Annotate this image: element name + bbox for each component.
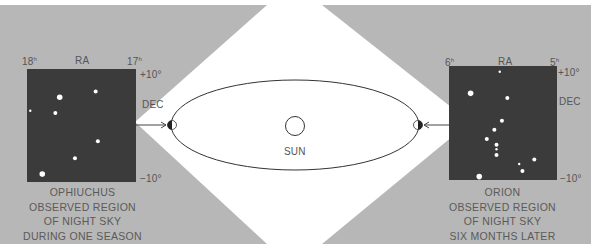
star — [505, 96, 509, 100]
star — [39, 171, 45, 177]
star — [96, 139, 100, 143]
ra-label-orion: RA — [498, 57, 512, 67]
star — [495, 148, 497, 150]
caption-line: ORION — [440, 185, 565, 200]
sun — [286, 117, 305, 136]
ra-tick-left-ophiuchus: 18h — [22, 56, 37, 67]
caption-orion: ORION OBSERVED REGION OF NIGHT SKY SIX M… — [440, 185, 565, 243]
star — [532, 157, 536, 161]
dec-tick-bottom-orion: −10° — [560, 174, 582, 184]
star — [485, 137, 489, 141]
caption-line: OPHIUCHUS — [10, 185, 155, 200]
star — [518, 163, 520, 165]
dec-tick-top-ophiuchus: +10° — [140, 70, 162, 80]
caption-line: OBSERVED REGION — [10, 200, 155, 215]
star — [492, 128, 496, 132]
star — [476, 174, 482, 180]
star — [495, 153, 499, 157]
star — [73, 156, 77, 160]
caption-line: DURING ONE SEASON — [10, 229, 155, 244]
star — [520, 169, 524, 173]
dec-tick-bottom-ophiuchus: −10° — [140, 174, 162, 184]
ra-tick-right-ophiuchus: 17h — [127, 56, 142, 67]
earth-right — [414, 121, 423, 130]
ra-label-ophiuchus: RA — [75, 56, 89, 66]
caption-ophiuchus: OPHIUCHUS OBSERVED REGION OF NIGHT SKY D… — [10, 185, 155, 243]
earth-left — [168, 121, 177, 130]
sky-panel-orion — [449, 66, 557, 180]
caption-line: SIX MONTHS LATER — [440, 229, 565, 244]
ra-tick-left-orion: 6h — [445, 57, 454, 68]
dec-label-orion: DEC — [559, 97, 581, 107]
star — [94, 90, 98, 94]
star — [500, 119, 504, 123]
star — [468, 91, 474, 97]
dec-tick-top-orion: +10° — [558, 68, 580, 78]
sky-panel-ophiuchus — [27, 69, 136, 182]
caption-line: OBSERVED REGION — [440, 200, 565, 215]
dec-label-ophiuchus: DEC — [142, 100, 164, 110]
star — [499, 71, 501, 73]
caption-line: OF NIGHT SKY — [440, 214, 565, 229]
star — [53, 111, 57, 115]
sun-label: SUN — [284, 147, 306, 157]
star — [29, 110, 31, 112]
star — [57, 94, 63, 100]
star — [495, 143, 499, 147]
caption-line: OF NIGHT SKY — [10, 214, 155, 229]
